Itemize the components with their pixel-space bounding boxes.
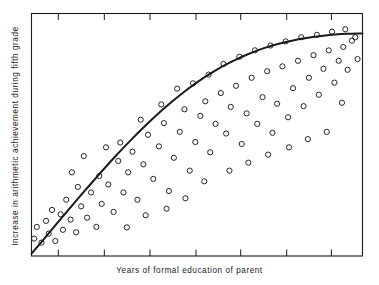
data-point	[336, 58, 341, 63]
data-point	[295, 58, 300, 63]
data-point	[81, 153, 86, 158]
data-point	[305, 137, 310, 142]
data-point	[255, 121, 260, 126]
data-point	[270, 130, 275, 135]
data-point	[103, 145, 108, 150]
data-point	[286, 145, 291, 150]
data-point	[161, 121, 166, 126]
data-point	[202, 179, 207, 184]
data-point	[164, 206, 169, 211]
data-point	[345, 67, 350, 72]
data-point	[290, 86, 295, 91]
data-point	[138, 117, 143, 122]
x-axis-ticks-top	[58, 14, 331, 21]
data-point	[208, 150, 213, 155]
data-point	[151, 176, 156, 181]
data-point	[166, 188, 171, 193]
data-point	[218, 90, 223, 95]
data-point	[224, 131, 229, 136]
data-point	[60, 227, 65, 232]
data-point	[99, 201, 104, 206]
data-point	[265, 69, 270, 74]
data-point	[311, 53, 316, 58]
data-point	[321, 66, 326, 71]
data-point	[306, 75, 311, 80]
data-point	[143, 213, 148, 218]
data-point	[239, 141, 244, 146]
y-axis-label-container: Increase in arithmetic achievement durin…	[11, 16, 25, 256]
data-point	[353, 35, 358, 40]
data-point	[187, 168, 192, 173]
data-point	[332, 80, 337, 85]
data-point	[135, 197, 140, 202]
data-point	[326, 48, 331, 53]
data-point	[280, 64, 285, 69]
data-point	[339, 100, 344, 105]
data-point	[68, 217, 73, 222]
data-point	[260, 95, 265, 100]
data-point	[175, 86, 180, 91]
data-point	[156, 144, 161, 149]
data-point	[111, 209, 116, 214]
data-point	[94, 224, 99, 229]
data-point	[171, 155, 176, 160]
data-points	[32, 27, 361, 246]
data-point	[74, 230, 79, 235]
data-point	[75, 184, 80, 189]
data-point	[124, 225, 129, 230]
data-point	[118, 140, 123, 145]
data-point	[88, 190, 93, 195]
data-point	[324, 129, 329, 134]
data-point	[49, 207, 54, 212]
data-point	[203, 99, 208, 104]
data-point	[355, 56, 360, 61]
data-point	[246, 160, 251, 165]
scatter-plot-canvas	[0, 0, 379, 285]
data-point	[227, 168, 232, 173]
data-point	[177, 129, 182, 134]
data-point	[301, 104, 306, 109]
data-point	[159, 102, 164, 107]
data-point	[182, 107, 187, 112]
data-point	[130, 149, 135, 154]
data-point	[32, 236, 37, 241]
data-point	[316, 92, 321, 97]
plot-frame	[32, 14, 363, 257]
data-point	[34, 224, 39, 229]
data-point	[116, 158, 121, 163]
data-point	[213, 121, 218, 126]
chart-figure: Increase in arithmetic achievement durin…	[0, 0, 379, 285]
data-point	[79, 204, 84, 209]
x-axis-ticks-bottom	[58, 250, 331, 257]
y-axis-label: Increase in arithmetic achievement durin…	[11, 16, 20, 256]
data-point	[69, 170, 74, 175]
data-point	[85, 215, 90, 220]
data-point	[43, 218, 48, 223]
axes-box	[32, 14, 363, 257]
data-point	[275, 101, 280, 106]
data-point	[121, 190, 126, 195]
data-point	[126, 170, 131, 175]
data-point	[145, 132, 150, 137]
data-point	[244, 111, 249, 116]
data-point	[285, 115, 290, 120]
data-point	[183, 196, 188, 201]
data-point	[228, 104, 233, 109]
data-point	[141, 162, 146, 167]
data-point	[58, 212, 63, 217]
data-point	[266, 152, 271, 157]
data-point	[64, 197, 69, 202]
x-axis-label: Years of formal education of parent	[0, 266, 379, 275]
data-point	[193, 139, 198, 144]
data-point	[343, 27, 348, 32]
data-point	[329, 29, 334, 34]
data-point	[53, 238, 58, 243]
data-point	[106, 182, 111, 187]
data-point	[233, 83, 238, 88]
data-point	[198, 113, 203, 118]
data-point	[249, 75, 254, 80]
data-point	[341, 44, 346, 49]
